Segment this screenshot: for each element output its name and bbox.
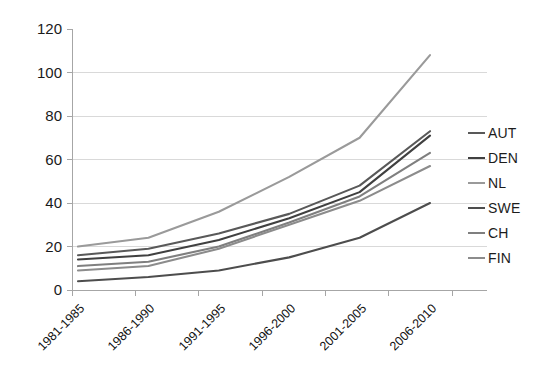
- y-tick-80: 80: [18, 108, 62, 123]
- series-lines: [78, 55, 430, 281]
- legend-item-swe[interactable]: SWE: [468, 195, 540, 220]
- chart-legend: AUTDENNLSWECHFIN: [468, 120, 540, 270]
- legend-swatch-aut: [468, 132, 485, 134]
- legend-item-ch[interactable]: CH: [468, 220, 540, 245]
- legend-label-den: DEN: [488, 151, 518, 165]
- y-tick-20: 20: [18, 239, 62, 254]
- legend-item-nl[interactable]: NL: [468, 170, 540, 195]
- y-tick-40: 40: [18, 195, 62, 210]
- series-line-swe: [78, 203, 430, 281]
- legend-item-fin[interactable]: FIN: [468, 245, 540, 270]
- y-tick-0: 0: [18, 282, 62, 297]
- legend-swatch-nl: [468, 182, 485, 184]
- legend-item-den[interactable]: DEN: [468, 145, 540, 170]
- legend-swatch-swe: [468, 207, 485, 209]
- legend-label-aut: AUT: [488, 126, 517, 140]
- legend-label-fin: FIN: [488, 251, 511, 265]
- legend-swatch-ch: [468, 232, 485, 234]
- series-line-ch: [78, 153, 430, 266]
- series-line-nl: [78, 55, 430, 246]
- legend-swatch-fin: [468, 257, 485, 259]
- series-line-fin: [78, 166, 430, 270]
- y-tick-120: 120: [18, 21, 62, 36]
- legend-item-aut[interactable]: AUT: [468, 120, 540, 145]
- legend-label-ch: CH: [488, 226, 509, 240]
- legend-swatch-den: [468, 157, 485, 159]
- y-tick-60: 60: [18, 152, 62, 167]
- y-tick-100: 100: [18, 65, 62, 80]
- legend-label-nl: NL: [488, 176, 506, 190]
- legend-label-swe: SWE: [488, 201, 521, 215]
- line-chart: 120100806040200 1981-19851986-19901991-1…: [0, 0, 541, 382]
